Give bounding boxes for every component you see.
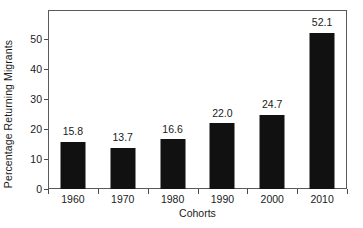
bar-value-label: 52.1 [312,17,332,28]
y-axis-tick-label: 20 [18,124,42,135]
bar [260,115,285,189]
x-axis-tick-label: 2000 [261,194,284,205]
y-axis-tick-label: 30 [18,94,42,105]
bar [160,139,185,189]
x-axis-tick-label: 1960 [61,194,84,205]
bar-value-label: 22.0 [212,108,232,119]
x-axis-title: Cohorts [48,208,347,219]
bar-slot: 15.8 [48,10,98,189]
y-axis-tick-label: 0 [18,184,42,195]
y-axis-tick-label: 40 [18,64,42,75]
bar [210,123,235,189]
bar-value-label: 16.6 [162,124,182,135]
y-axis-title: Percentage Returning Migrants [0,0,16,228]
bar-value-label: 24.7 [262,99,282,110]
bar-chart-figure: Percentage Returning Migrants 0102030405… [0,0,363,228]
bar-slot: 22.0 [198,10,248,189]
x-axis-tick-label: 2010 [310,194,333,205]
bar-value-label: 15.8 [63,126,83,137]
y-axis-tick-label: 50 [18,34,42,45]
bar-value-label: 13.7 [113,132,133,143]
bar [110,148,135,189]
bar [310,33,335,189]
x-axis-tick-label: 1980 [161,194,184,205]
x-axis-tick-label: 1990 [211,194,234,205]
bar-slot: 16.6 [148,10,198,189]
y-axis-tick-labels: 01020304050 [18,0,42,228]
bar-slot: 13.7 [98,10,148,189]
x-axis-tick-mark [347,189,348,194]
bar [60,142,85,189]
bar-series: 15.813.716.622.024.752.1 [48,10,347,189]
x-axis-tick-labels: 196019701980199020002010 [48,194,347,208]
bar-slot: 52.1 [297,10,347,189]
y-axis-tick-label: 10 [18,154,42,165]
x-axis-tick-label: 1970 [111,194,134,205]
bar-slot: 24.7 [247,10,297,189]
